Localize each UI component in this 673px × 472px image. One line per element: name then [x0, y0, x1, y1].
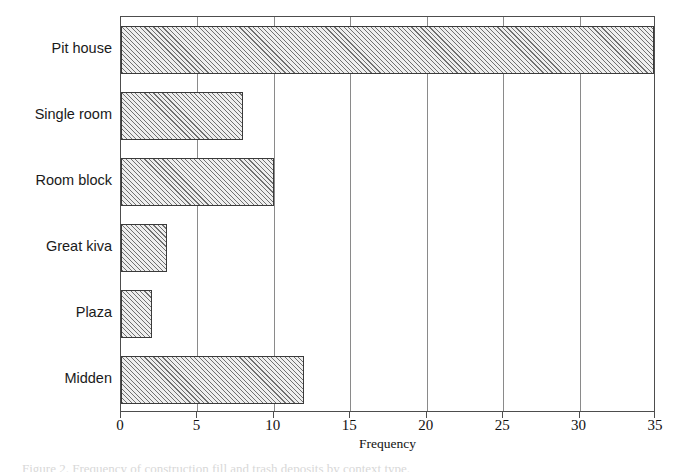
x-tick-label: 35 — [648, 418, 663, 433]
bar-row — [121, 26, 654, 74]
category-label-pit-house: Pit house — [0, 41, 112, 56]
bar-single-room[interactable] — [121, 92, 243, 140]
figure-caption: Figure 2. Frequency of construction fill… — [22, 462, 662, 472]
bars-group — [121, 17, 654, 411]
category-label-midden: Midden — [0, 371, 112, 386]
bar-row — [121, 158, 654, 206]
category-label-room-block: Room block — [0, 173, 112, 188]
bar-row — [121, 92, 654, 140]
x-tick-label: 20 — [418, 418, 433, 433]
x-tick-label: 5 — [193, 418, 201, 433]
x-tick-label: 30 — [571, 418, 586, 433]
bar-row — [121, 224, 654, 272]
category-label-single-room: Single room — [0, 107, 112, 122]
bar-room-block[interactable] — [121, 158, 274, 206]
bar-great-kiva[interactable] — [121, 224, 167, 272]
plot-area — [120, 16, 655, 412]
bar-plaza[interactable] — [121, 290, 152, 338]
x-tick-label: 0 — [116, 418, 124, 433]
x-tick-label: 15 — [342, 418, 357, 433]
bar-pit-house[interactable] — [121, 26, 654, 74]
bar-chart-figure: Pit houseSingle roomRoom blockGreat kiva… — [0, 0, 673, 472]
bar-midden[interactable] — [121, 356, 304, 404]
x-axis-title: Frequency — [120, 437, 655, 451]
x-axis-tick-labels: 05101520253035 — [120, 418, 655, 438]
category-label-plaza: Plaza — [0, 305, 112, 320]
bar-row — [121, 356, 654, 404]
x-tick-label: 10 — [265, 418, 280, 433]
category-label-great-kiva: Great kiva — [0, 239, 112, 254]
x-tick-label: 25 — [495, 418, 510, 433]
bar-row — [121, 290, 654, 338]
category-axis-labels: Pit houseSingle roomRoom blockGreat kiva… — [0, 16, 112, 412]
